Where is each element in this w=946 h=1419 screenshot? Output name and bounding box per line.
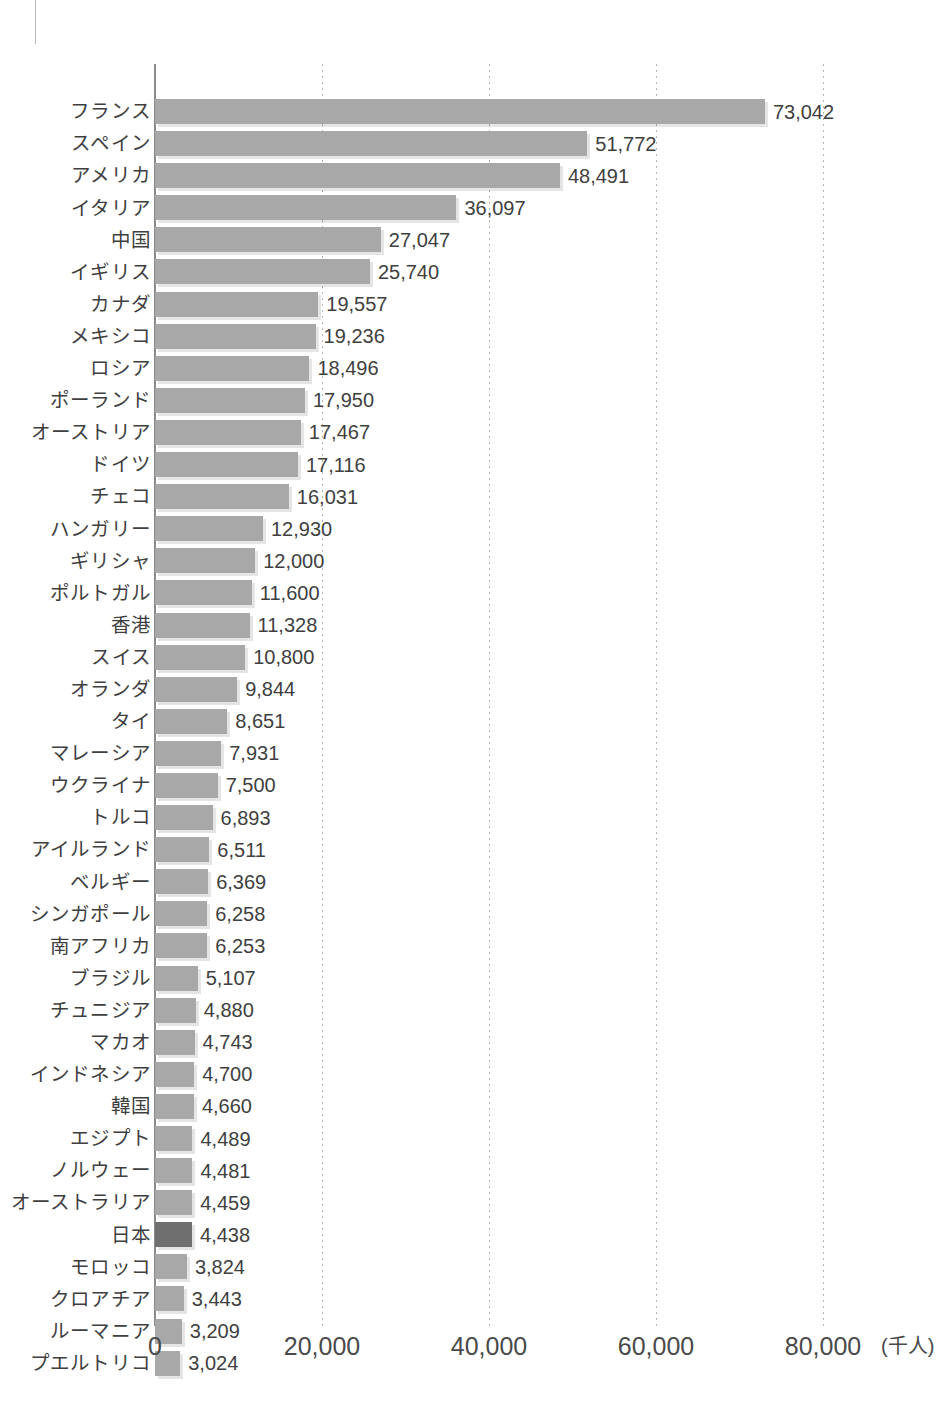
bar-row: エジプト4,489 (0, 1123, 946, 1155)
category-label: スペイン (0, 134, 151, 154)
x-tick-label-0: 0 (148, 1334, 162, 1359)
bar-value-label: 17,467 (309, 422, 370, 442)
category-label: マカオ (0, 1033, 151, 1053)
bar: 6,511 (155, 837, 209, 862)
category-label: 日本 (0, 1226, 151, 1246)
bar-value-label: 16,031 (297, 487, 358, 507)
bar-row: 中国27,047 (0, 224, 946, 256)
bar-row: ギリシャ12,000 (0, 545, 946, 577)
category-label: ノルウェー (0, 1161, 151, 1181)
x-tick-label-20000: 20,000 (284, 1334, 360, 1359)
bar-wrapper: 6,511 (155, 837, 209, 862)
bar-wrapper: 4,660 (155, 1094, 194, 1119)
bar-row: ロシア18,496 (0, 353, 946, 385)
category-label: スイス (0, 648, 151, 668)
bar-wrapper: 6,253 (155, 933, 207, 958)
bar-wrapper: 25,740 (155, 259, 370, 284)
bar: 17,116 (155, 452, 298, 477)
bar-row: オランダ9,844 (0, 674, 946, 706)
bar-wrapper: 36,097 (155, 195, 456, 220)
bar-value-label: 5,107 (206, 968, 256, 988)
bar-wrapper: 4,743 (155, 1030, 195, 1055)
category-label: 南アフリカ (0, 937, 151, 957)
bar-value-label: 3,443 (192, 1289, 242, 1309)
bar-row: ハンガリー12,930 (0, 513, 946, 545)
category-label: オランダ (0, 680, 151, 700)
bar-row: ドイツ17,116 (0, 449, 946, 481)
category-label: クロアチア (0, 1290, 151, 1310)
bar: 3,824 (155, 1254, 187, 1279)
bar-value-label: 36,097 (464, 198, 525, 218)
bar-row: ブラジル5,107 (0, 963, 946, 995)
category-label: オーストリア (0, 423, 151, 443)
category-label: ベルギー (0, 873, 151, 893)
bar: 6,893 (155, 805, 213, 830)
bar: 12,000 (155, 548, 255, 573)
bar-value-label: 4,700 (202, 1064, 252, 1084)
bar-value-label: 10,800 (253, 647, 314, 667)
bar: 27,047 (155, 227, 381, 252)
bar-value-label: 4,481 (200, 1161, 250, 1181)
category-label: エジプト (0, 1129, 151, 1149)
bar: 3,443 (155, 1286, 184, 1311)
bar-value-label: 3,824 (195, 1257, 245, 1277)
bar: 4,481 (155, 1158, 192, 1183)
bar-value-label: 27,047 (389, 230, 450, 250)
bar: 51,772 (155, 131, 587, 156)
bar-value-label: 4,438 (200, 1225, 250, 1245)
bar-row: トルコ6,893 (0, 802, 946, 834)
bar: 4,880 (155, 998, 196, 1023)
category-label: ハンガリー (0, 520, 151, 540)
category-label: オーストラリア (0, 1193, 151, 1213)
bar-value-label: 18,496 (317, 358, 378, 378)
bar-row: 南アフリカ6,253 (0, 930, 946, 962)
category-label: チュニジア (0, 1001, 151, 1021)
category-label: ポーランド (0, 391, 151, 411)
bar-value-label: 19,236 (324, 326, 385, 346)
bar-wrapper: 3,443 (155, 1286, 184, 1311)
bar-row: 韓国4,660 (0, 1091, 946, 1123)
bar: 48,491 (155, 163, 560, 188)
category-label: 中国 (0, 231, 151, 251)
bar-wrapper: 19,236 (155, 324, 316, 349)
bar-row: チェコ16,031 (0, 481, 946, 513)
bar: 11,328 (155, 613, 250, 638)
bar-wrapper: 11,328 (155, 613, 250, 638)
bar-wrapper: 4,459 (155, 1190, 192, 1215)
x-tick-label-80000: 80,000 (785, 1334, 861, 1359)
category-label: チェコ (0, 487, 151, 507)
category-label: 香港 (0, 616, 151, 636)
bar-value-label: 6,511 (217, 840, 266, 860)
bar-row: ウクライナ7,500 (0, 770, 946, 802)
bar: 4,743 (155, 1030, 195, 1055)
bar: 16,031 (155, 484, 289, 509)
bar-value-label: 11,600 (260, 583, 320, 603)
bar-value-label: 51,772 (595, 134, 656, 154)
bar: 12,930 (155, 516, 263, 541)
bar-wrapper: 17,950 (155, 388, 305, 413)
bar-wrapper: 11,600 (155, 580, 252, 605)
bar-row: クロアチア3,443 (0, 1283, 946, 1315)
bar-row: モロッコ3,824 (0, 1251, 946, 1283)
bar-value-label: 6,253 (215, 936, 265, 956)
category-label: ギリシャ (0, 552, 151, 572)
bar-wrapper: 3,824 (155, 1254, 187, 1279)
category-label: タイ (0, 712, 151, 732)
category-label: シンガポール (0, 905, 151, 925)
bar-wrapper: 8,651 (155, 709, 227, 734)
bar-value-label: 4,660 (202, 1096, 252, 1116)
bar: 4,489 (155, 1126, 192, 1151)
bar-wrapper: 6,893 (155, 805, 213, 830)
category-label: イタリア (0, 199, 151, 219)
bar-row: スイス10,800 (0, 642, 946, 674)
category-label: アイルランド (0, 840, 151, 860)
bar-value-label: 6,258 (215, 904, 265, 924)
bar: 17,950 (155, 388, 305, 413)
bar-value-label: 48,491 (568, 166, 629, 186)
bar-row: マカオ4,743 (0, 1027, 946, 1059)
bar-wrapper: 12,930 (155, 516, 263, 541)
category-label: トルコ (0, 808, 151, 828)
bar: 19,236 (155, 324, 316, 349)
bar-wrapper: 5,107 (155, 966, 198, 991)
bar-value-label: 17,950 (313, 390, 374, 410)
